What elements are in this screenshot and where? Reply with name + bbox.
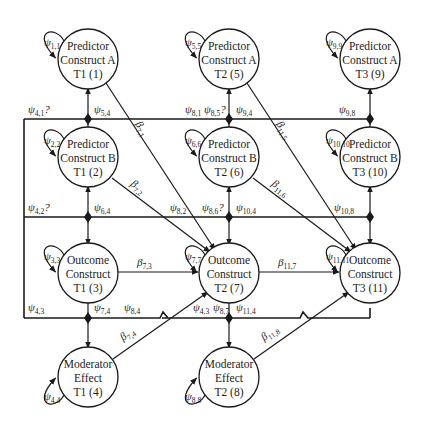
covariance-label: ψ8,5? [204,103,226,118]
path-coefficient-label: β11,5 [271,118,294,143]
path-coefficient-label: β7,3 [136,256,152,271]
path-beta-11-6 [253,178,351,252]
node-label-line: Predictor [67,40,109,52]
nodes: PredictorConstruct AT1 (1)ψ1,1PredictorC… [44,29,400,407]
path-beta-11-8 [254,292,349,359]
covariance-label: ψ8,1 [185,103,201,118]
path-coefficient-label: β11,7 [277,256,297,271]
node-8: ModeratorEffectT2 (8)ψ8,8 [185,347,259,407]
path-coefficient-label: β7,4 [116,324,138,346]
covariance-label: ψ6,4 [94,201,110,216]
node-label-line: Moderator [64,358,113,370]
node-label-line: Predictor [349,138,391,150]
node-label-line: T2 (6) [214,166,243,179]
covariance-label: ψ4,3 [28,301,44,316]
node-10: PredictorConstruct BT3 (10)ψ10,10 [326,127,400,187]
node-label-line: Construct B [201,152,257,164]
node-label-line: T1 (2) [73,166,102,179]
node-label-line: Construct [207,268,253,280]
node-4: ModeratorEffectT1 (4)ψ4,4 [44,347,118,407]
node-label-line: T2 (8) [214,386,243,399]
path-coefficient-label: β7,1 [130,118,151,140]
node-label-line: Outcome [67,254,109,266]
covariance-label: ψ4,3 [193,301,209,316]
path-coefficient-label: β7,2 [126,176,148,198]
node-label-line: Predictor [208,40,250,52]
covariance-label: ψ8,6? [202,201,224,216]
node-label-line: Construct A [342,54,398,66]
variance-label: ψ2,2 [44,134,60,149]
covariance-label: ψ7,4 [94,301,110,316]
variance-label: ψ7,7 [185,250,201,265]
node-label-line: T1 (1) [73,68,102,81]
node-label-line: Moderator [205,358,254,370]
path-beta-7-2 [112,178,210,252]
node-label-line: T3 (10) [353,166,388,179]
node-1: PredictorConstruct AT1 (1)ψ1,1 [44,29,118,89]
node-label-line: T2 (7) [214,282,243,295]
node-label-line: Outcome [349,254,391,266]
junction-dot [84,113,92,125]
variance-label: ψ1,1 [44,36,60,51]
node-label-line: Effect [74,372,103,384]
node-2: PredictorConstruct BT1 (2)ψ2,2 [44,127,118,187]
node-label-line: Construct A [60,54,116,66]
junction-dot [84,312,92,324]
node-label-line: Construct B [342,152,398,164]
covariance-label: ψ8,4 [124,301,140,316]
covariance-label: ψ5,4 [94,103,110,118]
covariance-label: ψ4,2? [28,201,50,216]
variance-label: ψ5,5 [185,36,201,51]
junction-dot [225,113,233,125]
node-11: OutcomeConstructT3 (11)ψ11,11 [326,243,400,303]
covariance-label: ψ4,1? [28,103,50,118]
node-label-line: T1 (4) [73,386,102,399]
node-label-line: Construct [66,268,112,280]
path-diagram: PredictorConstruct AT1 (1)ψ1,1PredictorC… [0,0,422,433]
covariance-label: ψ10,8 [334,201,354,216]
node-6: PredictorConstruct BT2 (6)ψ6,6 [185,127,259,187]
node-7: OutcomeConstructT2 (7)ψ7,7 [185,243,259,303]
node-label-line: Predictor [208,138,250,150]
node-label-line: Predictor [67,138,109,150]
node-label-line: Predictor [349,40,391,52]
node-3: OutcomeConstructT1 (3)ψ3,3 [44,243,118,303]
junction-dot [84,211,92,223]
node-label-line: T2 (5) [214,68,243,81]
junction-dot [366,211,374,223]
node-label-line: Outcome [208,254,250,266]
variance-label: ψ6,6 [185,134,201,149]
node-label-line: T3 (9) [355,68,384,81]
path-beta-7-1 [104,80,215,250]
node-label-line: Construct B [60,152,116,164]
node-label-line: Construct [348,268,394,280]
covariance-label: ψ11,4 [236,301,256,316]
covariance-label: ψ9,4 [236,103,252,118]
node-label-line: T1 (3) [73,282,102,295]
path-coefficient-label: β11,6 [267,176,292,200]
covariance-label: ψ9,8 [339,103,355,118]
node-9: PredictorConstruct AT3 (9)ψ9,9 [326,29,400,89]
node-5: PredictorConstruct AT2 (5)ψ5,5 [185,29,259,89]
node-label-line: T3 (11) [353,282,388,295]
junction-dot [366,113,374,125]
node-label-line: Effect [215,372,244,384]
variance-label: ψ3,3 [44,250,60,265]
junction-dot [225,211,233,223]
covariance-label: ψ10,4 [236,201,256,216]
variance-label: ψ9,9 [326,36,342,51]
node-label-line: Construct A [201,54,257,66]
